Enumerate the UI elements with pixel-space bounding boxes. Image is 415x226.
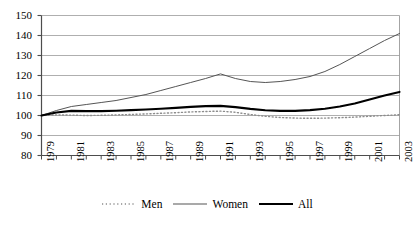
x-axis-label-1993: 1993: [255, 141, 266, 162]
legend-swatch-all: [259, 199, 293, 209]
y-axis-label-80: 80: [8, 150, 32, 161]
x-axis-label-2003: 2003: [404, 141, 415, 162]
line-chart: 8090100110120130140150 19791981198319851…: [0, 0, 415, 226]
x-axis-label-1997: 1997: [315, 141, 326, 162]
legend-item-all: All: [259, 198, 313, 210]
x-axis-label-1983: 1983: [106, 141, 117, 162]
legend-item-women: Women: [173, 198, 247, 210]
legend-swatch-women: [173, 199, 207, 209]
legend-item-men: Men: [102, 198, 162, 210]
legend-label-all: All: [298, 198, 313, 210]
x-axis-label-1999: 1999: [344, 141, 355, 162]
gridlines: [42, 16, 400, 156]
series-line-men: [42, 111, 400, 118]
x-axis-label-2001: 2001: [374, 141, 385, 162]
legend-label-women: Women: [212, 198, 247, 210]
series-line-women: [42, 34, 400, 116]
legend-swatch-men: [102, 199, 136, 209]
y-axis-label-150: 150: [8, 10, 32, 21]
x-axis-label-1979: 1979: [46, 141, 57, 162]
legend-label-men: Men: [141, 198, 162, 210]
y-axis-label-130: 130: [8, 50, 32, 61]
x-axis-label-1995: 1995: [285, 141, 296, 162]
y-axis-label-140: 140: [8, 30, 32, 41]
plot-area: [0, 0, 415, 226]
y-axis-label-90: 90: [8, 130, 32, 141]
x-axis-label-1991: 1991: [225, 141, 236, 162]
axis-lines: [42, 16, 400, 156]
x-axis-label-1981: 1981: [76, 141, 87, 162]
x-axis-label-1989: 1989: [195, 141, 206, 162]
chart-legend: MenWomenAll: [0, 198, 415, 210]
x-axis-label-1987: 1987: [165, 141, 176, 162]
y-axis-label-120: 120: [8, 70, 32, 81]
x-axis-label-1985: 1985: [136, 141, 147, 162]
y-axis-label-100: 100: [8, 110, 32, 121]
y-axis-label-110: 110: [8, 90, 32, 101]
